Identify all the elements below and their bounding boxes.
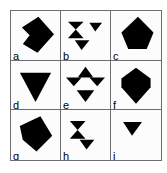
grid-cell-e[interactable]: e	[61, 61, 111, 111]
shape-grid-figure: a b c d	[0, 0, 167, 173]
grid-cell-j[interactable]: j	[111, 110, 161, 160]
grid-cell-g[interactable]: g	[11, 110, 61, 160]
cell-label-d: d	[13, 100, 19, 110]
cell-label-c: c	[113, 51, 119, 61]
cell-label-j: j	[113, 151, 115, 160]
shape-grid: a b c d	[10, 10, 162, 161]
grid-cell-d[interactable]: d	[11, 61, 61, 111]
cell-label-g: g	[13, 151, 19, 160]
cell-label-h: h	[63, 151, 69, 160]
gem-hexagon-shape	[111, 61, 161, 110]
cell-label-f: f	[113, 100, 116, 110]
grid-cell-b[interactable]: b	[61, 11, 111, 61]
cell-label-a: a	[13, 51, 19, 61]
small-down-triangle-shape	[111, 110, 161, 160]
cell-label-b: b	[63, 51, 69, 61]
grid-cell-c[interactable]: c	[111, 11, 161, 61]
cell-label-e: e	[63, 100, 69, 110]
grid-cell-a[interactable]: a	[11, 11, 61, 61]
grid-cell-f[interactable]: f	[111, 61, 161, 111]
grid-cell-h[interactable]: h	[61, 110, 111, 160]
